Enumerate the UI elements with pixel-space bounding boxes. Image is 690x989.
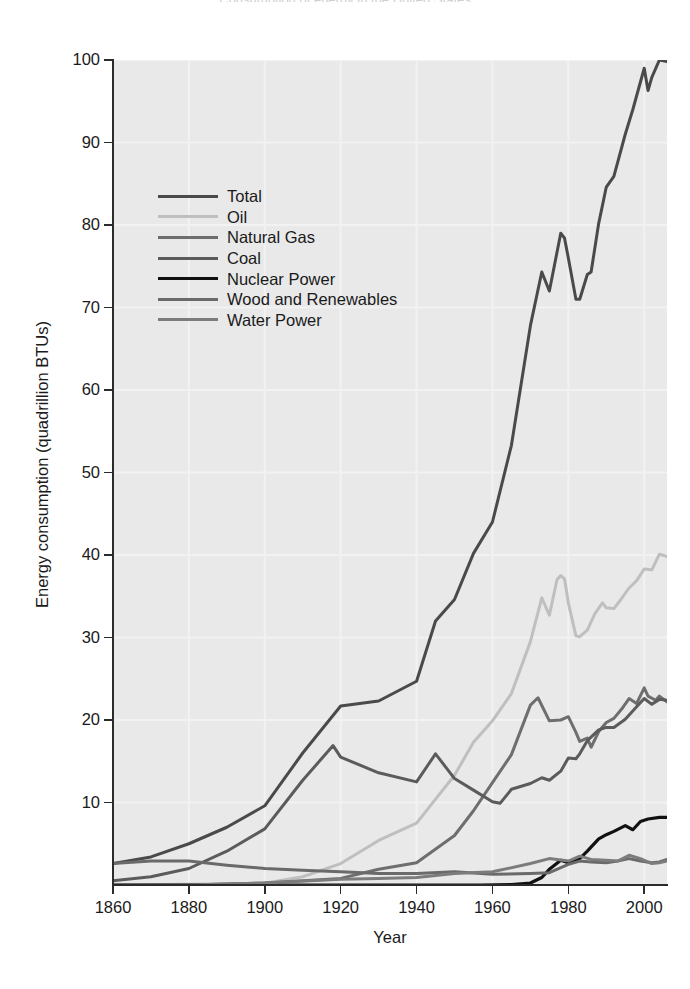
plot-svg xyxy=(113,60,667,885)
gridlines xyxy=(113,60,667,885)
x-axis-tick xyxy=(492,885,494,894)
x-axis-tick-label: 1980 xyxy=(533,898,603,917)
legend-label: Natural Gas xyxy=(227,228,315,246)
legend-swatch-icon xyxy=(158,318,218,321)
x-axis-tick-label: 1880 xyxy=(154,898,224,917)
y-axis-tick xyxy=(104,554,113,556)
y-axis-tick-label: 90 xyxy=(54,134,100,150)
x-axis-tick-label: 1920 xyxy=(306,898,376,917)
legend-item-wood-and-renewables[interactable]: Wood and Renewables xyxy=(158,289,418,310)
y-axis-tick xyxy=(104,719,113,721)
y-axis-tick-labels: 102030405060708090100 xyxy=(47,0,100,989)
y-axis-tick-label: 10 xyxy=(54,794,100,810)
series-line-total xyxy=(113,60,667,864)
legend-swatch-icon xyxy=(158,277,218,280)
plot-area xyxy=(113,60,667,885)
x-axis-tick xyxy=(416,885,418,894)
y-axis-title: Energy consumption (quadrillion BTUs) xyxy=(33,255,52,675)
chart-legend: TotalOilNatural GasCoalNuclear PowerWood… xyxy=(158,186,418,330)
legend-swatch-icon xyxy=(158,236,218,239)
x-axis-tick-label: 2000 xyxy=(609,898,679,917)
y-axis-tick-label: 50 xyxy=(54,464,100,480)
legend-item-water-power[interactable]: Water Power xyxy=(158,310,418,331)
legend-swatch-icon xyxy=(158,215,218,218)
x-axis-tick-label: 1860 xyxy=(78,898,148,917)
y-axis-tick xyxy=(104,224,113,226)
y-axis-tick-label: 100 xyxy=(54,51,100,67)
y-axis-tick-label: 80 xyxy=(54,216,100,232)
x-axis-title: Year xyxy=(113,928,667,947)
y-axis-tick-label: 30 xyxy=(54,629,100,645)
legend-item-natural-gas[interactable]: Natural Gas xyxy=(158,227,418,248)
legend-label: Nuclear Power xyxy=(227,270,335,288)
x-axis-tick-label: 1940 xyxy=(382,898,452,917)
y-axis-tick xyxy=(104,307,113,309)
legend-item-nuclear-power[interactable]: Nuclear Power xyxy=(158,268,418,289)
x-axis-tick xyxy=(568,885,570,894)
y-axis-tick-label: 20 xyxy=(54,711,100,727)
x-axis-tick xyxy=(188,885,190,894)
x-axis-tick xyxy=(340,885,342,894)
legend-label: Coal xyxy=(227,249,261,267)
x-axis-tick xyxy=(112,885,114,894)
y-axis-tick xyxy=(104,389,113,391)
legend-item-total[interactable]: Total xyxy=(158,186,418,207)
y-axis-tick xyxy=(104,802,113,804)
series-line-water-power xyxy=(113,855,667,885)
x-axis-tick-label: 1900 xyxy=(230,898,300,917)
y-axis-tick-label: 40 xyxy=(54,546,100,562)
y-axis-tick xyxy=(104,142,113,144)
y-axis-tick xyxy=(104,472,113,474)
legend-swatch-icon xyxy=(158,257,218,260)
legend-label: Wood and Renewables xyxy=(227,290,397,308)
energy-consumption-chart: Consumption of energy in the United Stat… xyxy=(0,0,690,989)
legend-label: Oil xyxy=(227,208,247,226)
chart-title: Consumption of energy in the United Stat… xyxy=(0,0,690,2)
legend-swatch-icon xyxy=(158,195,218,198)
y-axis-tick-label: 60 xyxy=(54,381,100,397)
x-axis-tick xyxy=(643,885,645,894)
legend-item-oil[interactable]: Oil xyxy=(158,207,418,228)
x-axis-tick xyxy=(264,885,266,894)
y-axis-tick-label: 70 xyxy=(54,299,100,315)
legend-label: Total xyxy=(227,187,262,205)
y-axis-tick xyxy=(104,637,113,639)
legend-item-coal[interactable]: Coal xyxy=(158,248,418,269)
y-axis-tick xyxy=(104,59,113,61)
legend-label: Water Power xyxy=(227,311,322,329)
legend-swatch-icon xyxy=(158,298,218,301)
x-axis-line xyxy=(112,884,668,886)
x-axis-tick-label: 1960 xyxy=(457,898,527,917)
